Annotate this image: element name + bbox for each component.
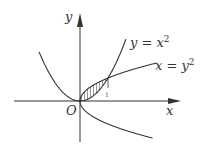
x-axis-label: x [166, 103, 174, 118]
curve-label-y-equals-x-squared: y = x2 [129, 34, 170, 50]
y-axis-label: y [64, 9, 73, 24]
curve-label-x-equals-y-squared: x = y2 [155, 57, 195, 73]
y-axis-arrow-icon [77, 13, 83, 27]
curve-y-equals-x-squared [39, 39, 126, 101]
function-graph: y x O 1 y = x2 x = y2 [0, 0, 202, 150]
origin-label: O [66, 103, 77, 118]
x-axis [14, 98, 181, 104]
y-axis [77, 13, 83, 142]
tick-label-1: 1 [105, 91, 109, 98]
shaded-region [80, 78, 108, 101]
